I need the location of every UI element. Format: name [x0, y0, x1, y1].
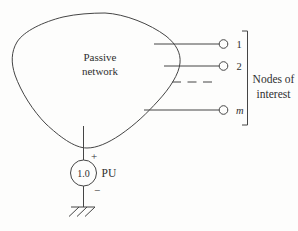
plus-sign: + — [91, 150, 97, 162]
ground-hatch-1 — [69, 207, 79, 217]
ground-hatch-2 — [77, 207, 87, 217]
node-1-terminal — [219, 40, 228, 49]
passive-network-label-line1: Passive — [84, 51, 117, 63]
minus-sign: − — [94, 184, 100, 196]
nodes-of-interest-label-line1: Nodes of — [253, 73, 295, 85]
nodes-of-interest-label-line2: interest — [257, 88, 292, 100]
node-m-terminal — [219, 106, 228, 115]
node-2-terminal — [219, 62, 228, 71]
voltage-source-unit: PU — [102, 167, 117, 179]
node-2-label: 2 — [237, 61, 242, 72]
node-1-label: 1 — [237, 39, 242, 50]
circuit-diagram: Passive network 1 2 m Nodes of interest … — [0, 0, 298, 231]
ground-symbol — [69, 207, 95, 217]
passive-network-label-line2: network — [82, 65, 119, 77]
circuit-diagram-canvas: Passive network 1 2 m Nodes of interest … — [0, 0, 298, 231]
voltage-source-value: 1.0 — [77, 168, 90, 179]
ground-hatch-3 — [85, 207, 95, 217]
passive-network-blob — [12, 13, 180, 148]
node-m-label: m — [236, 105, 244, 116]
